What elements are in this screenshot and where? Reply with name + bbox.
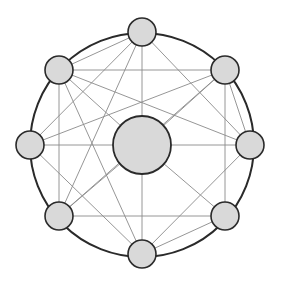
node-tl — [45, 56, 73, 84]
node-tr — [211, 56, 239, 84]
nodes-layer — [16, 18, 264, 268]
node-t — [128, 18, 156, 46]
node-r — [236, 131, 264, 159]
node-l — [16, 131, 44, 159]
network-diagram — [0, 0, 281, 286]
hub-node — [113, 116, 171, 174]
node-b — [128, 240, 156, 268]
node-br — [211, 202, 239, 230]
node-bl — [45, 202, 73, 230]
